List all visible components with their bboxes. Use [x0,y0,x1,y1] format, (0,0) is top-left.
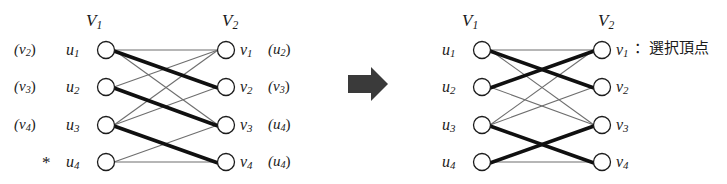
legend-text: 選択頂点 [649,39,709,57]
right-label-v2: v2 [616,79,629,96]
left-suffix-v3: (u4) [268,117,291,133]
right-label-u1: u1 [442,42,455,59]
left-edge-u1-v2-matched [114,51,218,88]
bipartite-matching-figure: V1 V2 (v2) (v3) (v4) * u1 u2 u3 u4 v1 v2… [0,0,727,184]
left-label-v4: v4 [240,154,253,171]
left-label-u2-sub: 2 [74,84,79,96]
right-label-u4: u4 [442,154,455,171]
left-edge-u2-v3-matched [114,88,218,126]
right-node-u3[interactable] [474,117,491,134]
right-panel-header-v1: V1 [462,12,478,31]
left-label-v1-sub: 1 [247,47,252,59]
left-label-u1: u1 [66,42,79,59]
left-label-u4: u4 [66,154,79,171]
left-node-u2[interactable] [98,79,115,96]
right-label-u3-sub: 3 [450,122,455,134]
left-node-u4[interactable] [98,154,115,171]
left-suffix-v4: (u4) [268,154,291,170]
left-label-v3: v3 [240,117,253,134]
left-header-v2-sub: 2 [232,19,238,32]
left-node-v4[interactable] [218,154,235,171]
left-prefix-u2-close: ) [31,78,36,94]
right-panel-edges [490,50,594,163]
left-label-v4-sub: 4 [247,159,252,171]
left-edge-u3-v4-matched [114,126,218,163]
right-label-v2-sub: 2 [623,84,628,96]
right-label-u3-letter: u [442,116,450,133]
right-label-v3: v3 [616,117,629,134]
right-header-v2-letter: V [598,11,608,30]
right-header-v1-letter: V [462,11,472,30]
left-header-v1-letter: V [86,11,96,30]
right-label-u2-letter: u [442,78,450,95]
right-arrow-icon [348,67,388,101]
left-label-u1-letter: u [66,41,74,58]
left-header-v1-sub: 1 [96,19,102,32]
right-node-u1[interactable] [474,42,491,59]
right-label-v3-sub: 3 [623,122,628,134]
left-label-v2-sub: 2 [247,84,252,96]
right-node-v2[interactable] [594,79,611,96]
right-node-u4[interactable] [474,154,491,171]
left-suffix-v2: (v3) [268,79,290,95]
right-label-u3: u3 [442,117,455,134]
right-label-u2-sub: 2 [450,84,455,96]
left-panel-edges [114,50,218,163]
right-label-u1-letter: u [442,41,450,58]
left-prefix-u1-close: ) [31,41,36,57]
left-panel-header-v2: V2 [222,12,238,31]
left-prefix-u2-text: (v [14,78,26,94]
right-header-v2-sub: 2 [608,19,614,32]
left-node-v2[interactable] [218,79,235,96]
right-label-u4-sub: 4 [450,159,455,171]
left-node-v3[interactable] [218,117,235,134]
left-suffix-v2-text: (v [268,78,280,94]
left-prefix-u1: (v2) [14,42,36,58]
left-label-v1: v1 [240,42,253,59]
legend-separator: ： [634,39,649,57]
left-suffix-v1-text: (u [268,41,281,57]
left-label-u3: u3 [66,117,79,134]
left-suffix-v2-close: ) [285,78,290,94]
asterisk-icon: * [42,153,51,172]
left-label-u4-letter: u [66,153,74,170]
left-label-v2: v2 [240,79,253,96]
right-node-v3[interactable] [594,117,611,134]
left-label-u3-sub: 3 [74,122,79,134]
left-label-u3-letter: u [66,116,74,133]
right-node-v1[interactable] [594,42,611,59]
left-header-v2-letter: V [222,11,232,30]
left-prefix-u3: (v4) [14,117,36,133]
left-label-u2-letter: u [66,78,74,95]
right-label-u2: u2 [442,79,455,96]
right-node-u2[interactable] [474,79,491,96]
right-header-v1-sub: 1 [472,19,478,32]
left-node-v1[interactable] [218,42,235,59]
left-label-u4-sub: 4 [74,159,79,171]
left-label-u1-sub: 1 [74,47,79,59]
left-prefix-u1-text: (v [14,41,26,57]
left-prefix-u3-close: ) [31,116,36,132]
left-node-u1[interactable] [98,42,115,59]
left-suffix-v3-close: ) [286,116,291,132]
right-label-u4-letter: u [442,153,450,170]
right-panel-header-v2: V2 [598,12,614,31]
left-label-v3-sub: 3 [247,122,252,134]
left-suffix-v4-text: (u [268,153,281,169]
right-label-v1: v1 [616,42,629,59]
left-label-u2: u2 [66,79,79,96]
right-label-v1-sub: 1 [623,47,628,59]
left-suffix-v4-close: ) [286,153,291,169]
legend-selected-vertex: ：選択頂点 [634,41,709,56]
right-label-v4: v4 [616,154,629,171]
right-label-u1-sub: 1 [450,47,455,59]
left-suffix-v3-text: (u [268,116,281,132]
left-prefix-u2: (v3) [14,79,36,95]
left-suffix-v1-close: ) [286,41,291,57]
left-node-u3[interactable] [98,117,115,134]
left-panel-header-v1: V1 [86,12,102,31]
right-node-v4[interactable] [594,154,611,171]
left-prefix-u4-asterisk: * [42,154,51,171]
right-label-v4-sub: 4 [623,159,628,171]
left-prefix-u3-text: (v [14,116,26,132]
